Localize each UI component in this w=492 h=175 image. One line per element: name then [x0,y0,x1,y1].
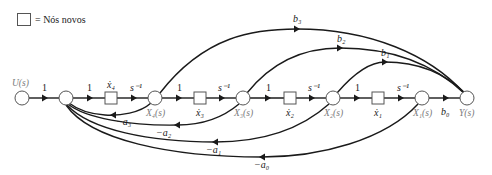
label-output: Y(s) [459,108,474,119]
node-sum [59,91,73,105]
arrow-icon [174,122,180,129]
gain-xd3-x3: s⁻¹ [218,82,230,93]
arrow-icon [398,95,404,102]
new-node-xdot4 [105,92,117,104]
gain-a3: −a₃ [116,116,132,127]
label-x2: X₂(s) [323,108,343,119]
new-node-xdot3 [194,92,206,104]
arrow-icon [294,26,300,33]
label-xdot3: ẋ₃ [195,107,204,118]
arrow-icon [176,95,182,102]
node-output [460,91,474,105]
gain-b3: b₃ [293,13,302,24]
gain-x3-xd2: 1 [266,82,271,93]
gain-x4-xd3: 1 [177,82,182,93]
gain-xd1-x1: s⁻¹ [397,82,409,93]
gain-b1: b₁ [381,47,389,58]
signal-flow-graph: U(s) X₄(s) X₃(s) X₂(s) X₁(s) Y(s) ẋ₄ ẋ₃ … [0,0,492,175]
gain-a0: −a₀ [254,159,270,170]
label-x4: X₄(s) [145,108,165,119]
new-node-xdot1 [372,92,384,104]
arrow-icon [265,95,271,102]
label-input: U(s) [12,78,29,89]
label-xdot4: ẋ₄ [106,79,115,90]
new-node-xdot2 [284,92,296,104]
node-x4 [148,91,162,105]
arrow-icon [131,95,137,102]
node-x2 [326,91,340,105]
gain-x1-y: b₀ [441,106,450,117]
arrow-icon [219,95,225,102]
gain-b2: b₂ [337,33,346,44]
label-x1: X₁(s) [412,108,432,119]
arrow-icon [42,95,48,102]
gain-x2-xd1: 1 [355,82,360,93]
arrow-icon [337,45,343,52]
gain-n1-xd4: 1 [87,82,92,93]
gain-u-n1: 1 [42,82,47,93]
arrow-icon [443,95,449,102]
node-x3 [236,91,250,105]
label-xdot2: ẋ₂ [285,107,294,118]
gain-a1: −a₁ [206,144,221,155]
gain-a2: −a₂ [156,127,172,138]
arrow-icon [382,59,388,66]
arrow-icon [354,95,360,102]
node-input [15,91,29,105]
node-x1 [415,91,429,105]
label-x3: X₃(s) [233,108,253,119]
gain-xd4-x4: s⁻¹ [130,82,142,93]
arrow-icon [309,95,315,102]
branch-a3 [69,103,151,115]
arrow-icon [87,95,93,102]
gain-xd2-x2: s⁻¹ [308,82,320,93]
label-xdot1: ẋ₁ [373,107,382,118]
